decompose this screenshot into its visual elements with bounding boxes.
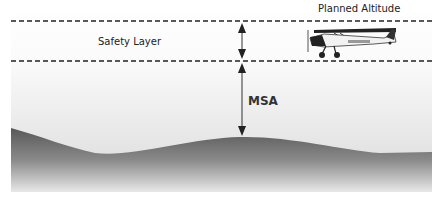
diagram-canvas bbox=[0, 0, 442, 200]
altitude-diagram: Planned Altitude Safety Layer MSA bbox=[0, 0, 442, 200]
safety-layer-label: Safety Layer bbox=[98, 36, 161, 47]
msa-label: MSA bbox=[248, 94, 278, 108]
planned-altitude-label: Planned Altitude bbox=[318, 3, 400, 14]
